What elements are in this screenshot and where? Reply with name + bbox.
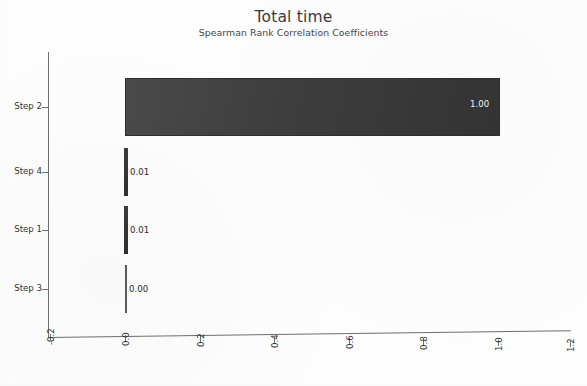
y-axis-tick-1: Step 4	[0, 166, 42, 178]
bar-step-4	[124, 148, 128, 196]
y-axis-tick-mark-3	[42, 289, 48, 290]
x-axis-tick-label-5: 0.8	[419, 336, 429, 350]
y-axis-tick-label-0: Step 2	[2, 101, 42, 111]
y-axis-tick-2: Step 1	[0, 224, 42, 236]
y-axis-tick-mark-0	[42, 107, 48, 108]
y-axis-tick-0: Step 2	[0, 101, 42, 113]
bar-value-label-step-3: 0.00	[129, 284, 148, 294]
y-axis-tick-mark-1	[42, 172, 48, 173]
x-axis-tick-label-7: 1.2	[566, 338, 576, 352]
bar-step-3	[125, 265, 127, 313]
y-axis-tick-label-3: Step 3	[2, 283, 42, 293]
chart-screenshot: Total time Spearman Rank Correlation Coe…	[0, 0, 587, 386]
y-axis-tick-label-1: Step 4	[2, 166, 42, 176]
y-axis-tick-mark-2	[42, 230, 48, 231]
x-axis-tick-label-2: 0.2	[196, 333, 206, 347]
x-axis-tick-label-0: -0.2	[46, 328, 56, 345]
bar-value-label-step-2: 1.00	[470, 99, 489, 109]
y-axis-tick-3: Step 3	[0, 283, 42, 295]
bar-value-label-step-4: 0.01	[130, 167, 149, 177]
x-axis-tick-label-4: 0.6	[345, 335, 355, 349]
x-axis-tick-label-3: 0.4	[270, 334, 280, 348]
bar-step-1	[124, 206, 128, 254]
bar-step-2	[125, 78, 500, 136]
y-axis-tick-label-2: Step 1	[2, 224, 42, 234]
x-axis-tick-label-6: 1.0	[494, 337, 504, 351]
bar-value-label-step-1: 0.01	[130, 225, 149, 235]
x-axis-tick-label-1: 0.0	[121, 332, 131, 346]
y-axis-spine	[48, 52, 49, 338]
plot-area: Step 2 Step 4 Step 1 Step 3 -0.2 0.0 0.2…	[0, 0, 587, 386]
